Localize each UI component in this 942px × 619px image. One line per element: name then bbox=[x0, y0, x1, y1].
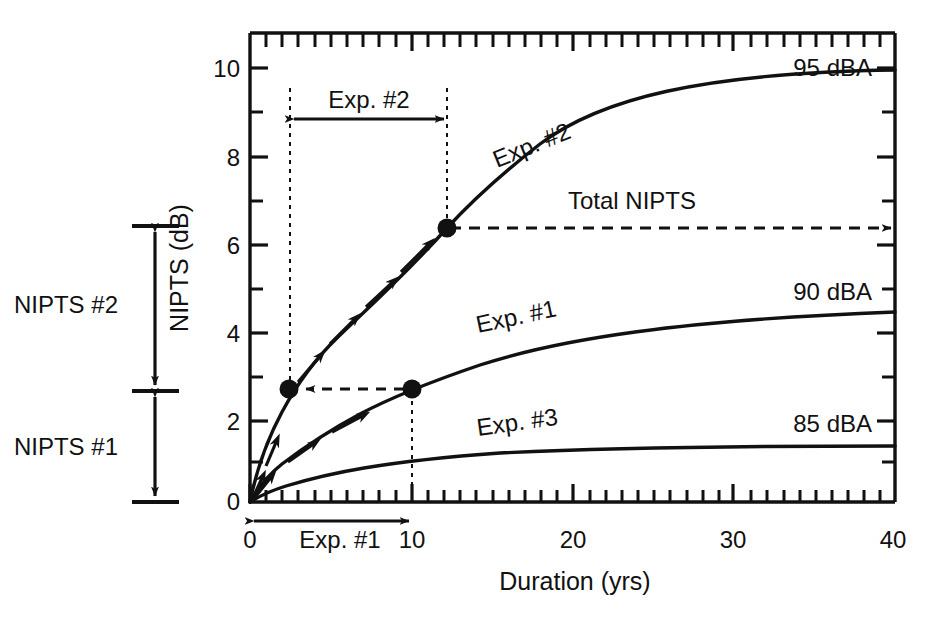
guide-lines bbox=[290, 88, 447, 500]
y-tick-label: 10 bbox=[213, 55, 240, 82]
y-axis-ticks bbox=[250, 68, 268, 462]
chart-figure: 10 8 6 4 2 0 0 10 20 30 40 NIPTS (dB) Du… bbox=[0, 0, 942, 619]
x-tick-label: 40 bbox=[880, 526, 907, 553]
nipts2-label: NIPTS #2 bbox=[14, 291, 118, 318]
y-tick-labels: 10 8 6 4 2 0 bbox=[213, 55, 240, 515]
curve-label-exp3: Exp. #3 bbox=[475, 403, 559, 441]
y-tick-label: 2 bbox=[227, 408, 240, 435]
series-label-90dba: 90 dBA bbox=[793, 278, 872, 305]
nipts1-label: NIPTS #1 bbox=[14, 433, 118, 460]
x-tick-label: 20 bbox=[560, 526, 587, 553]
curve-label-exp1: Exp. #1 bbox=[473, 295, 558, 338]
x-axis-ticks-top bbox=[266, 33, 880, 51]
series-label-85dba: 85 dBA bbox=[793, 410, 872, 437]
y-axis-ticks-right bbox=[877, 68, 895, 462]
y-axis-label: NIPTS (dB) bbox=[165, 204, 193, 332]
y-tick-label: 4 bbox=[227, 320, 240, 347]
y-tick-label: 0 bbox=[227, 488, 240, 515]
marker-exp1-end bbox=[403, 380, 422, 399]
x-tick-label: 0 bbox=[243, 526, 256, 553]
curve-90dba bbox=[250, 312, 895, 502]
marker-exp2-start bbox=[280, 380, 299, 399]
y-tick-label: 6 bbox=[227, 232, 240, 259]
series-label-95dba: 95 dBA bbox=[793, 54, 872, 81]
exp1-span-label: Exp. #1 bbox=[299, 526, 380, 553]
x-tick-label: 30 bbox=[720, 526, 747, 553]
total-nipts-label: Total NIPTS bbox=[568, 187, 696, 214]
x-axis-label: Duration (yrs) bbox=[499, 567, 650, 595]
marker-exp2-end bbox=[438, 219, 457, 238]
x-axis-ticks bbox=[250, 484, 880, 502]
exp2-span-label: Exp. #2 bbox=[328, 86, 409, 113]
x-tick-label: 10 bbox=[399, 526, 426, 553]
chart-svg: 10 8 6 4 2 0 0 10 20 30 40 NIPTS (dB) Du… bbox=[0, 0, 942, 619]
curve-label-exp2: Exp. #2 bbox=[489, 117, 575, 173]
y-tick-label: 8 bbox=[227, 144, 240, 171]
